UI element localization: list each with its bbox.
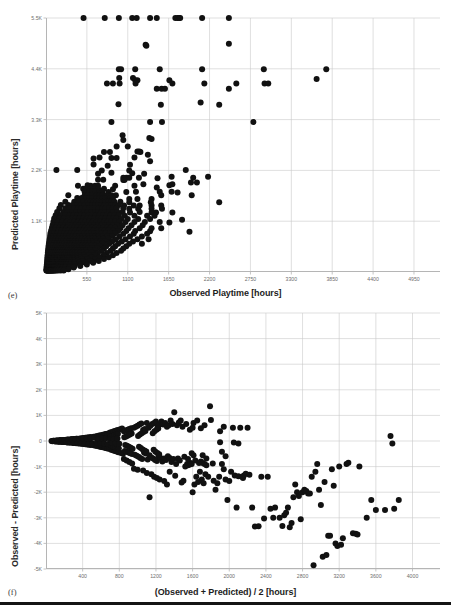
svg-text:400: 400 [78, 573, 87, 579]
svg-text:-4K: -4K [34, 540, 43, 546]
svg-text:3200: 3200 [333, 573, 345, 579]
svg-text:5.5K: 5.5K [31, 15, 42, 21]
svg-text:2750: 2750 [245, 276, 257, 282]
svg-text:3.3K: 3.3K [31, 117, 42, 123]
svg-text:-1K: -1K [34, 464, 43, 470]
svg-text:4400: 4400 [367, 276, 379, 282]
panel-f-scatter-svg: 40080012001600200024002800320036004000-5… [46, 313, 440, 569]
svg-text:3300: 3300 [286, 276, 298, 282]
svg-text:1K: 1K [36, 412, 43, 418]
svg-text:3600: 3600 [370, 573, 382, 579]
svg-text:-5K: -5K [34, 566, 43, 572]
panel-e: Predicted Playtime [hours] 5501100165022… [0, 0, 451, 305]
panel-f-plot-area: 40080012001600200024002800320036004000-5… [46, 313, 440, 569]
svg-text:1.1K: 1.1K [31, 218, 42, 224]
svg-text:4K: 4K [36, 336, 43, 342]
svg-text:1200: 1200 [150, 573, 162, 579]
svg-text:550: 550 [83, 276, 92, 282]
svg-text:4000: 4000 [407, 573, 419, 579]
svg-text:4.4K: 4.4K [31, 66, 42, 72]
svg-text:3850: 3850 [326, 276, 338, 282]
svg-text:1100: 1100 [122, 276, 133, 282]
svg-text:2800: 2800 [297, 573, 309, 579]
svg-text:2K: 2K [36, 387, 43, 393]
svg-text:2400: 2400 [260, 573, 272, 579]
svg-text:4950: 4950 [408, 276, 420, 282]
panel-e-y-axis-title: Predicted Playtime [hours] [10, 139, 20, 250]
panel-f-y-axis-title: Observed - Predicted [hours] [10, 446, 20, 567]
panel-e-plot-area: 550110016502200275033003850440049501.1K2… [46, 18, 440, 272]
svg-text:2000: 2000 [223, 573, 235, 579]
panel-f-x-axis-title: (Observed + Predicted) / 2 [hours] [0, 587, 451, 597]
svg-text:0: 0 [39, 438, 42, 444]
panel-f-tag: (f) [8, 587, 17, 597]
svg-text:-3K: -3K [34, 515, 43, 521]
panel-f: Observed - Predicted [hours] 40080012001… [0, 305, 451, 615]
figure-bottom-rule [0, 602, 451, 605]
svg-text:5K: 5K [36, 310, 43, 316]
figure-page: Predicted Playtime [hours] 5501100165022… [0, 0, 451, 615]
svg-text:-2K: -2K [34, 489, 43, 495]
svg-text:1650: 1650 [163, 276, 175, 282]
svg-text:800: 800 [115, 573, 124, 579]
svg-text:2.2K: 2.2K [31, 167, 42, 173]
svg-text:3K: 3K [36, 361, 43, 367]
svg-text:1600: 1600 [187, 573, 199, 579]
svg-text:2200: 2200 [204, 276, 216, 282]
panel-e-tag: (e) [8, 290, 17, 300]
panel-e-scatter-svg: 550110016502200275033003850440049501.1K2… [46, 18, 440, 272]
panel-e-x-axis-title: Observed Playtime [hours] [0, 288, 451, 298]
